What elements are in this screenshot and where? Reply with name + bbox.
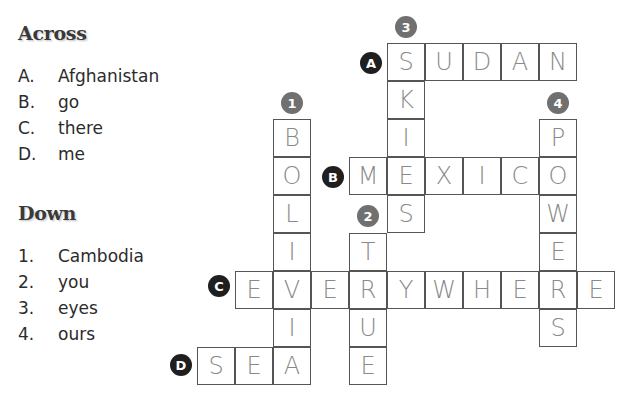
cell-3-5[interactable]: S <box>387 195 425 233</box>
cell-c-8[interactable]: E <box>501 271 539 309</box>
across-clue-b: B.go <box>18 92 79 112</box>
down-clue-2: 2.you <box>18 272 89 292</box>
across-clue-d: D.me <box>18 144 85 164</box>
cell-1-2[interactable]: O <box>273 157 311 195</box>
badge-c: C <box>208 275 230 297</box>
across-clue-a: A.Afghanistan <box>18 66 159 86</box>
across-heading: Across <box>18 22 87 44</box>
cell-c-9[interactable]: R <box>539 271 577 309</box>
cell-b-2[interactable]: E <box>387 157 425 195</box>
cell-b-3[interactable]: X <box>425 157 463 195</box>
cell-4-4[interactable]: E <box>539 233 577 271</box>
cell-c-10[interactable]: E <box>577 271 615 309</box>
cell-c-3[interactable]: E <box>311 271 349 309</box>
cell-1-4[interactable]: I <box>273 233 311 271</box>
badge-d: D <box>170 354 192 376</box>
badge-a: A <box>360 52 382 74</box>
cell-4-3[interactable]: W <box>539 195 577 233</box>
cell-3-3[interactable]: I <box>387 119 425 157</box>
cell-c-7[interactable]: H <box>463 271 501 309</box>
badge-2: 2 <box>357 205 379 227</box>
cell-3-2[interactable]: K <box>387 81 425 119</box>
cell-2-3[interactable]: U <box>349 309 387 347</box>
cell-b-6[interactable]: O <box>539 157 577 195</box>
badge-1: 1 <box>281 92 303 114</box>
cell-b-4[interactable]: I <box>463 157 501 195</box>
cell-a-5[interactable]: N <box>539 43 577 81</box>
cell-2-4[interactable]: E <box>349 347 387 385</box>
across-clue-c: C.there <box>18 118 103 138</box>
cell-b-1[interactable]: M <box>349 157 387 195</box>
cell-d-1[interactable]: S <box>197 347 235 385</box>
cell-b-5[interactable]: C <box>501 157 539 195</box>
cell-c-6[interactable]: W <box>425 271 463 309</box>
cell-a-4[interactable]: A <box>501 43 539 81</box>
cell-a-3[interactable]: D <box>463 43 501 81</box>
cell-1-1[interactable]: B <box>273 119 311 157</box>
badge-4: 4 <box>547 92 569 114</box>
down-clue-1: 1.Cambodia <box>18 246 144 266</box>
cell-2-1[interactable]: T <box>349 233 387 271</box>
cell-d-2[interactable]: E <box>235 347 273 385</box>
cell-a-1[interactable]: S <box>387 43 425 81</box>
cell-d-3[interactable]: A <box>273 347 311 385</box>
down-clue-3: 3.eyes <box>18 298 98 318</box>
cell-c-1[interactable]: E <box>235 271 273 309</box>
badge-b: B <box>322 166 344 188</box>
cell-c-4[interactable]: R <box>349 271 387 309</box>
cell-1-6[interactable]: I <box>273 309 311 347</box>
down-heading: Down <box>18 202 76 224</box>
cell-c-2[interactable]: V <box>273 271 311 309</box>
cell-a-2[interactable]: U <box>425 43 463 81</box>
badge-3: 3 <box>395 16 417 38</box>
cell-4-6[interactable]: S <box>539 309 577 347</box>
cell-1-3[interactable]: L <box>273 195 311 233</box>
cell-c-5[interactable]: Y <box>387 271 425 309</box>
cell-4-1[interactable]: P <box>539 119 577 157</box>
down-clue-4: 4.ours <box>18 324 95 344</box>
